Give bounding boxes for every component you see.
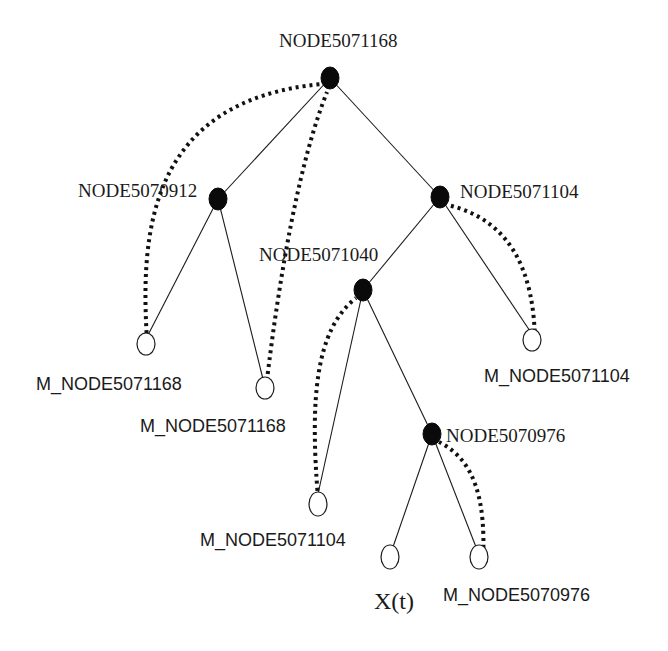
label-n1104: NODE5071104 [460, 181, 579, 202]
edge-n912-m1168a [148, 199, 218, 335]
label-m1104a: M_NODE5071104 [484, 366, 630, 387]
label-n976: NODE5070976 [446, 425, 565, 446]
pointer-m1104b-to-n1040 [315, 298, 356, 498]
pointer-arcs [145, 84, 535, 562]
edge-n976-m976 [432, 434, 476, 547]
pointer-m1168b-to-root [266, 92, 327, 388]
label-m1104b: M_NODE5071104 [200, 530, 346, 551]
label-root: NODE5071168 [279, 30, 398, 51]
label-n1040: NODE5071040 [259, 244, 378, 265]
leaf-m1168b [256, 377, 274, 399]
label-m976: M_NODE5070976 [443, 585, 590, 606]
leaf-m1104b [309, 492, 327, 516]
edge-root-n1104 [330, 78, 440, 197]
label-m1168a: M_NODE5071168 [36, 374, 182, 395]
leaf-m1104a [523, 329, 541, 351]
edge-n976-xt [393, 434, 432, 547]
leaf-m976 [470, 545, 488, 569]
node-labels: NODE5071168 NODE5070912 NODE5071104 NODE… [36, 30, 630, 614]
node-n1104 [431, 186, 449, 208]
edge-n912-m1168b [218, 199, 263, 379]
pointer-m1104a-to-n1104 [448, 205, 535, 346]
label-m1168b: M_NODE5071168 [140, 416, 286, 437]
node-root [321, 67, 339, 89]
edge-n1104-m1104a [440, 197, 530, 331]
node-n976 [423, 423, 441, 445]
leaf-m1168a [137, 333, 155, 355]
edge-n1040-m1104b [318, 290, 363, 494]
label-xt: X(t) [374, 588, 414, 614]
pointer-m1168a-to-root [145, 84, 322, 340]
leaf-xt [381, 545, 399, 569]
node-n912 [209, 188, 227, 210]
pointer-m976-to-n976 [439, 442, 483, 562]
node-n1040 [354, 279, 372, 301]
tree-diagram: NODE5071168 NODE5070912 NODE5071104 NODE… [0, 0, 668, 651]
edge-n1040-n976 [363, 290, 432, 434]
label-n912: NODE5070912 [78, 180, 197, 201]
